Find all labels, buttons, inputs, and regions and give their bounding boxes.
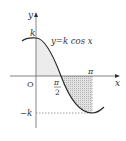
pi-label: π xyxy=(87,67,94,76)
cosine-diagram: y x y=k cos x k O π π 2 −k xyxy=(0,0,126,141)
k-label: k xyxy=(30,28,35,38)
half-pi-numerator: π xyxy=(53,78,60,87)
half-pi-denominator: 2 xyxy=(55,88,60,97)
neg-k-label: −k xyxy=(20,108,32,118)
equation-label: y=k cos x xyxy=(50,36,93,46)
x-axis-label: x xyxy=(115,78,120,88)
origin-label: O xyxy=(27,80,34,89)
y-axis-label: y xyxy=(27,10,34,20)
y-axis-arrow-icon xyxy=(34,12,38,17)
shaded-area-negative xyxy=(61,76,92,113)
